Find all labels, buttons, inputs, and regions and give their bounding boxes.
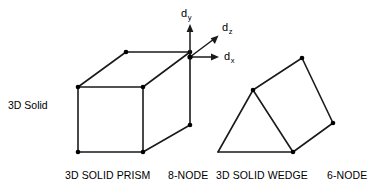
- axis-triad: [187, 24, 219, 60]
- wedge-node-4: [331, 121, 336, 126]
- wedge-group: [218, 56, 335, 155]
- axis-label-dy: dy: [181, 8, 191, 19]
- prism-node-2: [141, 85, 146, 90]
- caption-prism-main: 3D SOLID PRISM: [65, 170, 150, 181]
- prism-nodes: [76, 50, 193, 155]
- axis-label-dx-letter: d: [224, 50, 230, 62]
- prism-node-1: [76, 85, 81, 90]
- wedge-edge-left-slope: [218, 90, 253, 152]
- axis-arrowhead-dz: [211, 36, 219, 45]
- caption-prism-nodes: 8-NODE: [168, 170, 208, 181]
- axis-label-dz-sub: z: [229, 27, 233, 36]
- caption-wedge-nodes: 6-NODE: [327, 170, 367, 181]
- axis-label-dy-letter: d: [181, 7, 187, 19]
- wedge-node-2: [251, 88, 256, 93]
- axis-arrowhead-dy: [187, 24, 194, 32]
- caption-wedge-main: 3D SOLID WEDGE: [216, 170, 308, 181]
- prism-edges: [78, 52, 190, 152]
- axis-label-dz-letter: d: [222, 21, 228, 33]
- wedge-node-3: [300, 56, 305, 61]
- axis-origin-node: [187, 54, 192, 59]
- prism-edge-top-right-diag: [143, 52, 190, 87]
- prism-node-3: [141, 150, 146, 155]
- wedge-edge-bottom-back: [293, 123, 333, 152]
- prism-node-4: [76, 150, 81, 155]
- side-label-text: 3D Solid: [8, 99, 48, 111]
- fem-element-diagram: [0, 0, 381, 188]
- wedge-node-1: [291, 150, 296, 155]
- axis-line-dz: [190, 39, 214, 57]
- figure-canvas: 3D Solid dy dz dx 3D SOLID PRISM 8-NODE …: [0, 0, 381, 188]
- axis-label-dx: dx: [224, 51, 234, 62]
- prism-edge-right-bottom: [143, 125, 190, 152]
- axis-label-dz: dz: [222, 22, 232, 33]
- axis-arrowhead-dx: [211, 54, 219, 61]
- prism-node-7: [188, 123, 193, 128]
- prism-node-5: [124, 50, 129, 55]
- wedge-edge-right-slope: [253, 90, 293, 152]
- axis-label-dy-sub: y: [188, 13, 192, 22]
- prism-group: [76, 50, 193, 155]
- axis-label-dx-sub: x: [231, 56, 235, 65]
- wedge-edge-back-right: [302, 58, 333, 123]
- prism-edge-top-left-diag: [78, 52, 126, 87]
- wedge-edges: [218, 58, 333, 152]
- wedge-edge-top-ridge: [253, 58, 302, 90]
- side-label-3d-solid: 3D Solid: [8, 100, 48, 111]
